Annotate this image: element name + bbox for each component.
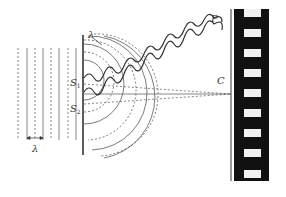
lambda-circ-label: λ: [87, 29, 94, 40]
circular-wavefronts: [84, 34, 158, 158]
double-slit-diagram: λ λ S1 S2 P C: [0, 0, 286, 197]
point-c-label: C: [217, 75, 225, 86]
point-p-label: P: [210, 13, 218, 24]
slit2-label: S2: [70, 103, 81, 115]
lambda-circ-marker: [93, 38, 102, 45]
lambda-plane-label: λ: [31, 143, 38, 154]
plane-wavefronts: [18, 48, 76, 140]
slit1-label: S1: [70, 77, 81, 89]
interference-fringes: [244, 9, 261, 178]
